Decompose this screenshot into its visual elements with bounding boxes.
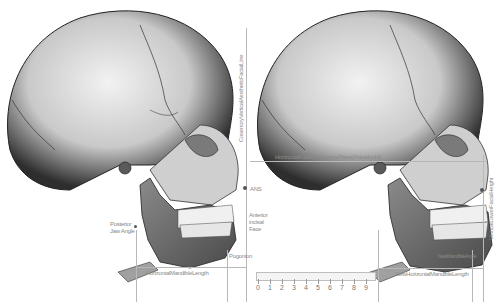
posterior-jaw-angle-label-2: Jaw Angle <box>110 228 135 235</box>
ruler-label: 5 <box>316 284 320 291</box>
vertical-lower-facial-height-label: VerticalLowerFacialHeight <box>488 178 495 240</box>
ruler-label: 9 <box>364 284 368 291</box>
vertical-lower-facial-height-line <box>483 155 484 302</box>
horizontal-facial-reference-plane <box>250 161 486 162</box>
ruler-label: 4 <box>304 284 308 291</box>
left-skull-panel: CoserroryVerticalAestheticFacialLine ANS… <box>0 0 250 302</box>
ans-point-marker <box>243 186 247 190</box>
ruler-label: 3 <box>292 284 296 291</box>
ruler-label: 1 <box>268 284 272 291</box>
ans-point-marker-right <box>480 188 484 192</box>
posterior-jaw-angle-marker <box>134 225 137 228</box>
pogonion-vertical-line <box>227 250 228 302</box>
horizontal-mandible-length-label: HorizontalMandibleLength <box>146 270 209 277</box>
ruler-label: 7 <box>340 284 344 291</box>
skull-illustration-left <box>0 0 250 302</box>
aesthetic-facial-vertical-line <box>246 28 247 302</box>
ruler-label: 6 <box>328 284 332 291</box>
ruler-label: 8 <box>352 284 356 291</box>
ruler-label: 0 <box>256 284 260 291</box>
pogonion-label: Pogonion <box>229 253 252 260</box>
vertical-aesthetic-line-label: CoserroryVerticalAestheticFacialLine <box>238 55 245 142</box>
ruler-label: 2 <box>280 284 284 291</box>
new-mandible-angle-label: NewMandibleAngle <box>438 253 476 260</box>
posterior-jaw-angle-label-1: Posterior <box>110 221 131 228</box>
new-mandible-left-line <box>378 230 379 302</box>
ruler-bar <box>256 272 376 281</box>
horizontal-reference-plane-label: HorizontalFacialReferencePlane(Frankfurt… <box>275 154 381 161</box>
horizontal-mandible-baseline <box>136 267 246 268</box>
new-horizontal-mandible-baseline <box>378 268 483 269</box>
posterior-jaw-vertical-line <box>136 230 137 302</box>
scale-ruler: 0 1 2 3 4 5 6 7 8 9 <box>250 272 374 296</box>
right-skull-panel: HorizontalFacialReferencePlane(Frankfurt… <box>250 0 504 302</box>
new-horizontal-mandible-length-label: NewHorizontalMandibleLength <box>395 271 469 278</box>
